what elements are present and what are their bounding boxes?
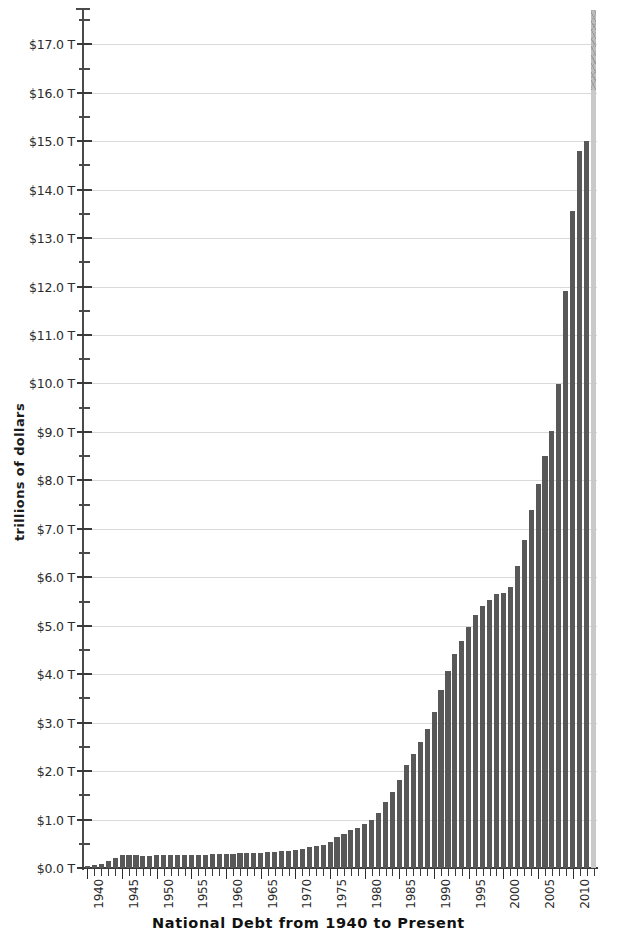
bar-1970	[293, 850, 298, 868]
bar-1968	[279, 851, 284, 868]
x-tick-minor	[531, 869, 532, 876]
bar-1973	[314, 846, 319, 868]
bar-1981	[369, 820, 374, 868]
x-tick-minor	[386, 869, 387, 876]
x-tick-label: 2010	[578, 879, 592, 909]
x-tick-minor	[178, 869, 179, 876]
bar-1950	[154, 855, 159, 868]
x-tick-label: 2000	[508, 879, 522, 909]
bar-1972	[307, 847, 312, 868]
bar-2004	[529, 510, 534, 868]
x-tick-major	[191, 869, 192, 879]
bar-1940	[85, 866, 90, 868]
x-tick-minor	[552, 869, 553, 876]
x-tick-minor	[372, 869, 373, 876]
x-tick-minor	[455, 869, 456, 876]
bar-2000	[501, 593, 506, 868]
bar-1998	[487, 600, 492, 868]
bar-1951	[161, 855, 166, 868]
x-tick-minor	[580, 869, 581, 876]
x-tick-major	[87, 869, 88, 879]
bar-1989	[425, 729, 430, 868]
bar-2012	[584, 141, 589, 868]
bar-2009	[563, 291, 568, 868]
x-tick-minor	[462, 869, 463, 876]
x-tick-minor	[323, 869, 324, 876]
x-tick-minor	[115, 869, 116, 876]
x-tick-minor	[448, 869, 449, 876]
bar-1948	[140, 856, 145, 868]
x-tick-label: 1980	[370, 879, 384, 909]
x-tick-minor	[309, 869, 310, 876]
bar-1952	[168, 855, 173, 868]
bar-1974	[321, 845, 326, 868]
x-tick-minor	[351, 869, 352, 876]
bar-1962	[237, 853, 242, 868]
bar-1995	[466, 627, 471, 868]
x-tick-minor	[524, 869, 525, 876]
projection-hatch	[591, 10, 596, 90]
plot-area: $0.0 T$1.0 T$2.0 T$3.0 T$4.0 T$5.0 T$6.0…	[84, 8, 597, 868]
y-axis-title-text: trillions of dollars	[12, 403, 27, 541]
bar-1993	[452, 654, 457, 868]
x-tick-minor	[406, 869, 407, 876]
bar-1941	[92, 865, 97, 868]
bar-2002	[515, 566, 520, 868]
x-tick-minor	[247, 869, 248, 876]
bar-2001	[508, 587, 513, 868]
bar-1977	[341, 834, 346, 868]
y-tick-label: $5.0 T	[37, 618, 75, 633]
x-tick-minor	[164, 869, 165, 876]
bar-1978	[348, 830, 353, 868]
x-tick-major	[399, 869, 400, 879]
bar-1996	[473, 615, 478, 868]
bar-1990	[432, 712, 437, 868]
bar-1980	[362, 824, 367, 868]
x-tick-label: 1965	[266, 879, 280, 909]
bar-1959	[217, 854, 222, 868]
y-tick-label: $2.0 T	[37, 764, 75, 779]
y-tick-label: $6.0 T	[37, 570, 75, 585]
x-tick-minor	[289, 869, 290, 876]
x-tick-label: 1970	[300, 879, 314, 909]
x-tick-minor	[587, 869, 588, 876]
x-tick-minor	[212, 869, 213, 876]
bar-1949	[147, 856, 152, 868]
x-tick-minor	[171, 869, 172, 876]
y-tick-label: $11.0 T	[29, 328, 75, 343]
bar-1984	[390, 792, 395, 868]
x-tick-label: 1940	[92, 879, 106, 909]
bar-1982	[376, 813, 381, 868]
x-tick-label: 1995	[474, 879, 488, 909]
x-tick-minor	[594, 869, 595, 876]
bar-1944	[113, 858, 118, 868]
y-tick-label: $12.0 T	[29, 279, 75, 294]
y-tick-label: $17.0 T	[29, 37, 75, 52]
bar-1966	[265, 852, 270, 868]
x-tick-minor	[205, 869, 206, 876]
bar-1947	[133, 855, 138, 868]
bar-1997	[480, 606, 485, 868]
x-tick-minor	[143, 869, 144, 876]
x-tick-minor	[441, 869, 442, 876]
x-tick-minor	[254, 869, 255, 876]
x-tick-minor	[510, 869, 511, 876]
bar-1961	[230, 854, 235, 868]
y-tick-label: $8.0 T	[37, 473, 75, 488]
x-tick-minor	[379, 869, 380, 876]
bar-1983	[383, 802, 388, 868]
x-tick-minor	[344, 869, 345, 876]
y-tick-label: $3.0 T	[37, 715, 75, 730]
x-tick-minor	[337, 869, 338, 876]
x-tick-major	[261, 869, 262, 879]
x-axis-title: National Debt from 1940 to Present	[0, 915, 617, 931]
y-tick-label: $13.0 T	[29, 231, 75, 246]
bar-1960	[224, 854, 229, 868]
x-tick-minor	[136, 869, 137, 876]
bar-2005	[536, 484, 541, 868]
x-tick-minor	[483, 869, 484, 876]
bar-1958	[210, 854, 215, 868]
bar-1963	[244, 853, 249, 868]
bar-2010	[570, 211, 575, 868]
x-tick-major	[226, 869, 227, 879]
